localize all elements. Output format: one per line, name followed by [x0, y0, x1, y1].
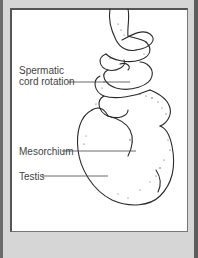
torsion-illustration	[0, 0, 198, 258]
label-spermatic-cord: Spermatic cord rotation	[19, 65, 75, 87]
label-spermatic-cord-line1: Spermatic	[19, 65, 75, 76]
label-spermatic-cord-line2: cord rotation	[19, 76, 75, 87]
label-testis: Testis	[19, 171, 45, 182]
label-mesorchium: Mesorchium	[19, 146, 73, 157]
